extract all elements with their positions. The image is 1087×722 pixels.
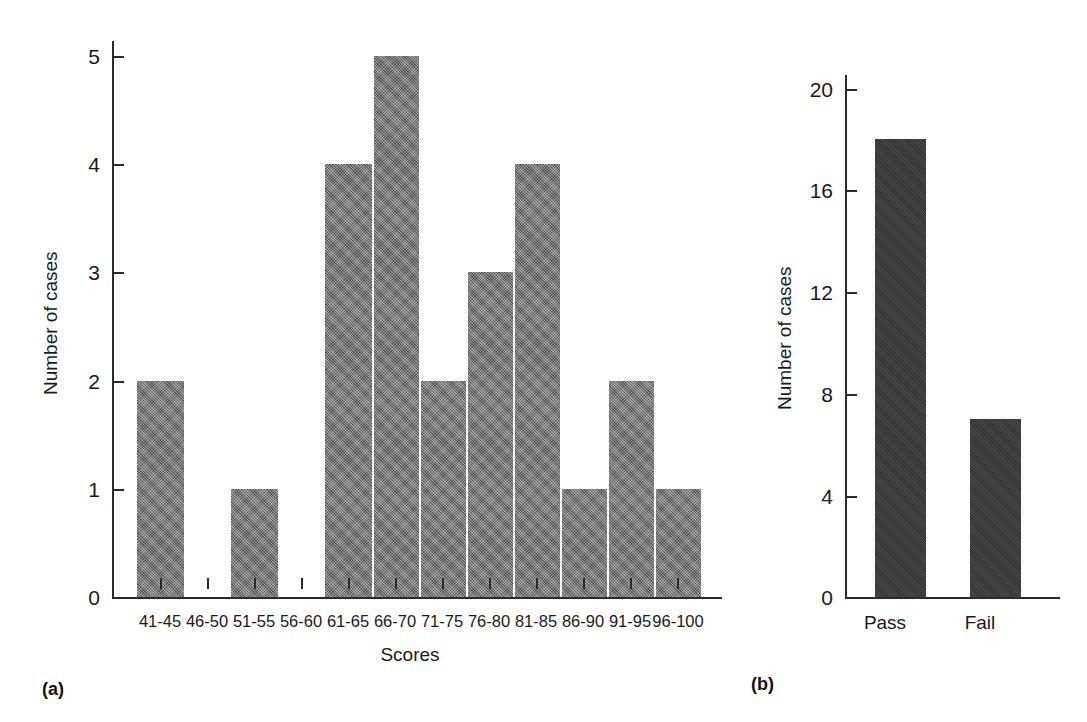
panel-b-xtick-label-pass: Pass [835, 613, 935, 632]
panel-a-bar-76-80 [468, 272, 513, 597]
panel-a-plot-area [137, 56, 701, 597]
panel-a-y-axis [112, 41, 114, 599]
panel-a-ytick-4 [113, 164, 124, 166]
panel-b-plot-area [845, 88, 1060, 597]
panel-b-bar-chart: 20 16 12 8 4 0 Number of cases Pass Fail… [760, 0, 1087, 722]
panel-b-x-axis [845, 597, 1060, 599]
panel-b-ytick-label-20: 20 [788, 79, 833, 100]
panel-a-ytick-label-4: 4 [60, 154, 100, 175]
panel-b-ytick-label-0: 0 [788, 587, 833, 608]
panel-a-ytick-label-2: 2 [60, 371, 100, 392]
panel-b-xtick-label-fail: Fail [930, 613, 1030, 632]
panel-a-xtick-2 [254, 578, 256, 589]
panel-a-label: (a) [42, 679, 64, 700]
panel-b-ytick-label-16: 16 [788, 180, 833, 201]
panel-a-bar-81-85 [515, 164, 560, 597]
panel-b-label: (b) [751, 674, 774, 695]
panel-a-bar-41-45 [137, 381, 184, 597]
panel-a-xtick-10 [630, 578, 632, 589]
panel-b-ytick-label-4: 4 [788, 486, 833, 507]
panel-a-histogram: 5 4 3 2 1 0 Number of cases [0, 0, 760, 722]
panel-a-xtick-0 [160, 578, 162, 589]
panel-a-xtick-4 [348, 578, 350, 589]
panel-a-bar-66-70 [374, 56, 419, 597]
panel-b-bar-fail [970, 419, 1021, 597]
panel-a-ytick-2 [113, 381, 124, 383]
panel-a-x-axis-title: Scores [330, 644, 490, 666]
panel-a-bar-71-75 [421, 381, 466, 597]
panel-a-ytick-1 [113, 489, 124, 491]
panel-a-ytick-label-1: 1 [60, 479, 100, 500]
panel-a-y-axis-title: Number of cases [40, 251, 62, 395]
panel-a-xtick-9 [583, 578, 585, 589]
panel-a-ytick-5 [113, 56, 124, 58]
panel-a-xtick-1 [207, 578, 209, 589]
panel-a-xtick-3 [301, 578, 303, 589]
panel-a-xtick-7 [489, 578, 491, 589]
panel-a-bar-91-95 [609, 381, 654, 597]
panel-a-xtick-5 [395, 578, 397, 589]
panel-a-ytick-3 [113, 272, 124, 274]
panel-b-bar-pass [875, 139, 926, 597]
panel-a-xtick-11 [677, 578, 679, 589]
panel-a-ytick-label-3: 3 [60, 262, 100, 283]
panel-a-ytick-label-5: 5 [60, 46, 100, 67]
panel-b-y-axis-title: Number of cases [774, 266, 796, 410]
panel-a-xtick-label-11: 96-100 [637, 613, 719, 630]
panel-a-ytick-label-0: 0 [60, 587, 100, 608]
panel-a-xtick-6 [442, 578, 444, 589]
figure-canvas: 5 4 3 2 1 0 Number of cases [0, 0, 1087, 722]
panel-a-x-axis [112, 597, 722, 599]
panel-a-bar-61-65 [325, 164, 372, 597]
panel-a-xtick-8 [536, 578, 538, 589]
